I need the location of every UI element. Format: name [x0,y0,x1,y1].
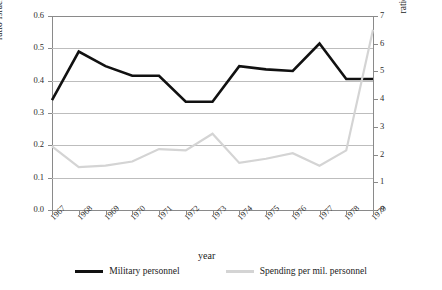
gridline [52,113,373,114]
y-axis-left-tick-label: 0.0 [4,205,44,214]
y-axis-right-tick-label: 1 [380,177,400,186]
y-axis-right-tick-label: 7 [380,11,400,20]
plot-top-border [52,16,374,17]
y-axis-left-tick [48,48,52,49]
y-axis-right-tick [374,44,378,45]
legend-label-spending-per-mil-personnel: Spending per mil. personnel [260,266,367,276]
y-axis-right-title-text: ratio Israel to Egypt pending per mil. p… [398,0,409,16]
y-axis-right-tick [374,127,378,128]
x-axis-tick-label: 1972 [182,203,201,222]
y-axis-left-tick [48,81,52,82]
y-axis-right-tick-label: 6 [380,39,400,48]
y-axis-left-tick-label: 0.1 [4,173,44,182]
x-axis-tick-label: 1975 [262,203,281,222]
gridline [52,48,373,49]
y-axis-right-tick-label: 5 [380,66,400,75]
y-axis-right-tick-label: 4 [380,94,400,103]
x-axis-title: year [198,250,215,261]
x-axis-tick-label: 1971 [155,203,174,222]
x-axis-tick-label: 1967 [48,203,67,222]
series-line-military-personnel [52,43,373,101]
x-axis-tick-label: 1978 [342,203,361,222]
gridline [52,178,373,179]
y-axis-left-tick-label: 0.3 [4,108,44,117]
x-axis-tick-label: 1974 [235,203,254,222]
y-axis-left-tick [48,178,52,179]
gridline [52,145,373,146]
caption-fragment [2,281,302,288]
y-axis-left-tick-label: 0.4 [4,76,44,85]
y-axis-right-tick [374,99,378,100]
y-axis-right-tick-label: 2 [380,150,400,159]
y-axis-right-title: ratio Israel to Egypt pending per mil. p… [398,0,409,16]
y-axis-left-tick-label: 0.5 [4,43,44,52]
legend-item-military-personnel[interactable]: Military personnel [75,266,179,276]
y-axis-left-tick [48,16,52,17]
series-line-spending-per-mil-personnel [52,30,373,167]
chart-figure: 0.00.10.20.30.40.50.6 01234567 196719681… [0,0,442,290]
y-axis-right-tick [374,71,378,72]
legend-item-spending-per-mil-personnel[interactable]: Spending per mil. personnel [226,266,367,276]
legend-swatch-spending-per-mil-personnel [226,270,254,273]
x-axis-tick-label: 1970 [128,203,147,222]
y-axis-right-tick-label: 3 [380,122,400,131]
gridline [52,81,373,82]
y-axis-right-tick [374,182,378,183]
y-axis-left-tick [48,113,52,114]
y-axis-left-tick-label: 0.2 [4,140,44,149]
legend-label-military-personnel: Military personnel [109,266,179,276]
legend-swatch-military-personnel [75,270,103,273]
x-axis-tick-label: 1973 [209,203,228,222]
x-axis-tick-label: 1977 [316,203,335,222]
y-axis-left-title: ratio Israel to Egypt mil. personnel [0,0,4,40]
y-axis-right-tick [374,16,378,17]
y-axis-left-tick [48,145,52,146]
y-axis-left-tick-label: 0.6 [4,11,44,20]
x-axis-tick-label: 1968 [75,203,94,222]
x-axis-tick-label: 1976 [289,203,308,222]
chart-legend: Military personnel Spending per mil. per… [0,266,442,276]
y-axis-right-tick [374,155,378,156]
x-axis-tick-label: 1969 [102,203,121,222]
